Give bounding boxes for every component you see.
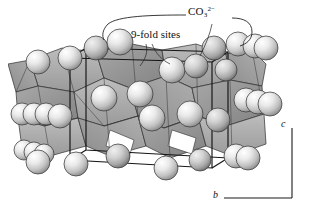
- label-nine-fold-sites: 9-fold sites: [131, 28, 180, 40]
- sphere-row-bottom-left-stack: [14, 140, 54, 174]
- crystal-structure-figure: CO32− 9-fold sites c b: [0, 0, 309, 213]
- carbonate-superscript: 2−: [207, 5, 215, 13]
- sphere-row-left-flank: [11, 103, 72, 128]
- carbonate-base: CO: [188, 5, 204, 17]
- axis-label-c: c: [281, 118, 285, 129]
- axis-label-b: b: [213, 189, 218, 200]
- label-carbonate: CO32−: [188, 5, 215, 19]
